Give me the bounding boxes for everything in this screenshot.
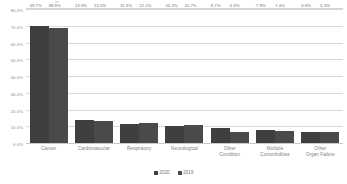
bar-group: 13.9%13.0% [71,9,116,143]
y-axis-tick-label: 80.0% [11,8,23,13]
bar-slot: 6.3% [230,9,249,143]
bar-slot: 68.9% [49,9,68,143]
bar[interactable]: 12.1% [139,123,158,143]
legend-swatch-icon [178,171,182,175]
x-axis-category-label: Respiratory [117,146,162,158]
bar-value-label: 10.7% [184,3,196,8]
bar-value-label: 6.3% [320,3,330,8]
x-axis-category-label: OtherCondition [207,146,252,158]
x-axis-category-label: MultipleComorbidities [252,146,297,158]
bar-value-label: 12.1% [139,3,151,8]
bar-slot: 7.8% [256,9,275,143]
bar-slot: 6.6% [301,9,320,143]
bar[interactable]: 6.6% [301,132,320,143]
legend-label: 2019 [183,170,193,175]
x-axis-category-label: Neurological [162,146,207,158]
y-axis-tick-label: 20.0% [11,108,23,113]
legend-label: 2020 [159,170,169,175]
bar-slot: 69.7% [30,9,49,143]
bar-group: 7.8%7.4% [252,9,297,143]
bar-value-label: 7.8% [256,3,266,8]
x-axis-labels: CancerCardiovascularRespiratoryNeurologi… [26,146,343,158]
bar[interactable]: 6.3% [230,132,249,143]
grouped-bar-chart: 80.0%70.0%60.0%50.0%40.0%30.0%20.0%10.0%… [0,0,347,184]
y-axis-tick-label: 70.0% [11,24,23,29]
x-axis-category-line: Respiratory [117,146,162,152]
bar-value-label: 13.9% [75,3,87,8]
chart-legend: 20202019 [0,170,347,175]
bar-value-label: 69.7% [30,3,42,8]
bar[interactable]: 8.7% [211,128,230,143]
bar-slot: 6.3% [320,9,339,143]
bar[interactable]: 13.9% [75,120,94,143]
x-axis-category-label: Cardiovascular [71,146,116,158]
bar-slot: 12.1% [139,9,158,143]
bar-value-label: 13.0% [94,3,106,8]
bar[interactable]: 7.4% [275,131,294,143]
bar-slot: 10.7% [184,9,203,143]
legend-item[interactable]: 2020 [154,170,170,175]
legend-item[interactable]: 2019 [178,170,194,175]
x-axis-category-line: Cardiovascular [71,146,116,152]
bar[interactable]: 11.3% [120,124,139,143]
bar-value-label: 68.9% [49,3,61,8]
x-axis-category-line: Cancer [26,146,71,152]
bar-groups: 69.7%68.9%13.9%13.0%11.3%12.1%10.2%10.7%… [26,9,343,143]
bar-slot: 13.0% [94,9,113,143]
y-axis-tick-label: 40.0% [11,75,23,80]
bar-group: 6.6%6.3% [298,9,343,143]
bar-group: 69.7%68.9% [26,9,71,143]
bar-value-label: 6.3% [230,3,240,8]
bar-value-label: 11.3% [120,3,132,8]
y-axis-tick-label: 50.0% [11,58,23,63]
gridline: 0.0% [26,143,343,144]
x-axis-category-label: OtherOrgan Failure [298,146,343,158]
x-axis-category-line: Organ Failure [298,152,343,158]
bar-slot: 7.4% [275,9,294,143]
bar-slot: 8.7% [211,9,230,143]
bar[interactable]: 10.7% [184,125,203,143]
bar-value-label: 7.4% [275,3,285,8]
y-axis-tick-label: 60.0% [11,41,23,46]
bar-group: 10.2%10.7% [162,9,207,143]
legend-swatch-icon [154,171,158,175]
x-axis-category-line: Comorbidities [252,152,297,158]
x-axis-category-line: Condition [207,152,252,158]
bar[interactable]: 6.3% [320,132,339,143]
bar[interactable]: 10.2% [165,126,184,143]
bar-value-label: 6.6% [301,3,311,8]
bar-group: 8.7%6.3% [207,9,252,143]
bar-slot: 10.2% [165,9,184,143]
bar-slot: 11.3% [120,9,139,143]
bar[interactable]: 68.9% [49,28,68,143]
y-axis-tick-label: 10.0% [11,125,23,130]
bar[interactable]: 7.8% [256,130,275,143]
y-axis-tick-label: 30.0% [11,91,23,96]
bar-value-label: 10.2% [165,3,177,8]
bar-group: 11.3%12.1% [117,9,162,143]
x-axis-category-line: Neurological [162,146,207,152]
bar[interactable]: 13.0% [94,121,113,143]
plot-area: 80.0%70.0%60.0%50.0%40.0%30.0%20.0%10.0%… [26,8,343,143]
bar-value-label: 8.7% [211,3,221,8]
bar-slot: 13.9% [75,9,94,143]
bar[interactable]: 69.7% [30,26,49,143]
y-axis-tick-label: 0.0% [13,142,23,147]
x-axis-category-label: Cancer [26,146,71,158]
plot-frame: 80.0%70.0%60.0%50.0%40.0%30.0%20.0%10.0%… [26,8,343,143]
